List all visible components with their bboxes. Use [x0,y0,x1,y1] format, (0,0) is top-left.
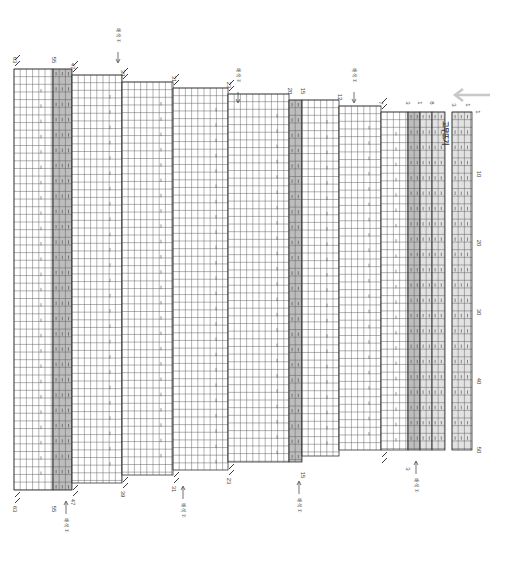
chart-section-8 [432,112,445,450]
chart-section-63 [14,55,53,503]
column-label-bottom: 3 [405,467,411,470]
row-number-label: 1 [475,110,481,113]
column-label-top: 39 [120,70,126,77]
repeat-label: 3 [451,103,457,106]
column-label-top: 1 [417,101,423,104]
chart-section-39 [122,68,173,488]
column-label-top: 55 [51,57,57,64]
column-label-top: 20 [287,88,293,95]
chart-section-31 [173,74,228,483]
chart-section-23 [228,80,289,475]
column-label-bottom: 31 [171,486,177,493]
row-number-label: 10 [476,171,482,178]
chart-section-47 [72,61,122,496]
column-label-bottom: 55 [51,506,57,513]
column-label-bottom: 63 [12,506,18,513]
column-label-top: 12 [337,94,343,101]
chart-section-55 [53,69,72,490]
colorwork-note: 배색① [352,68,359,82]
column-label-bottom: 47 [70,499,76,506]
chart-section-3 [408,112,420,450]
column-label-top: 7 [378,101,384,104]
row-number-label: 50 [476,447,482,454]
column-label-top: 63 [12,57,18,64]
chart-section-7 [381,98,408,463]
ribbing-vertical-label: 고무뜨기 [441,121,451,145]
chart-section-15 [302,100,339,456]
row-number-label: 30 [476,309,482,316]
colorwork-note: 배색① [64,518,71,532]
colorwork-note: 배색② [236,68,243,82]
column-label-top: 15 [300,88,306,95]
column-label-top: 23 [226,82,232,89]
row-number-label: 40 [476,378,482,385]
chart-section-12 [339,106,381,450]
ribbing-repeat-block [452,112,472,450]
column-label-top: 3 [405,101,411,104]
column-label-bottom: 15 [300,472,306,479]
colorwork-note: 배색② [181,503,188,517]
column-label-bottom: 39 [120,491,126,498]
column-label-top: 31 [171,76,177,83]
colorwork-note: 배색① [297,498,304,512]
chart-section-20 [289,100,302,462]
column-label-top: 47 [70,63,76,70]
knitting-chart [0,0,509,568]
column-label-top: 8 [429,101,435,104]
colorwork-note: 배색① [414,478,421,492]
arrow-left-icon [455,89,490,101]
row-number-label: 20 [476,240,482,247]
colorwork-note: 배색① [116,28,123,42]
column-label-bottom: 23 [226,478,232,485]
repeat-label: 1 [465,103,471,106]
chart-section-1 [420,112,432,450]
